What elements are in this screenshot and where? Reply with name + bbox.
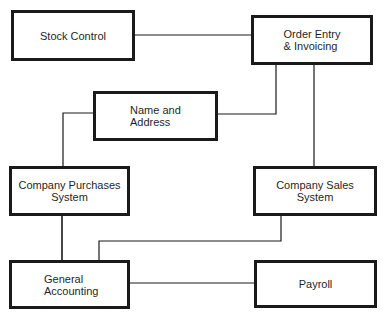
node-company-sales-system: Company Sales System bbox=[253, 166, 377, 216]
node-label: Payroll bbox=[299, 278, 333, 290]
node-company-purchases-system: Company Purchases System bbox=[9, 166, 130, 216]
node-label: Stock Control bbox=[40, 30, 106, 42]
node-label: Name and Address bbox=[130, 104, 181, 128]
node-label: General Accounting bbox=[44, 273, 98, 297]
edge-sales-accounting bbox=[99, 216, 281, 260]
edge-order-name bbox=[218, 64, 276, 114]
node-label: Company Purchases System bbox=[18, 179, 120, 203]
edge-name-purchases bbox=[63, 113, 93, 166]
node-payroll: Payroll bbox=[254, 260, 377, 308]
node-label: Order Entry & Invoicing bbox=[284, 28, 341, 52]
node-label: Company Sales System bbox=[276, 179, 354, 203]
node-name-and-address: Name and Address bbox=[93, 91, 218, 141]
node-general-accounting: General Accounting bbox=[9, 260, 130, 309]
node-order-entry-invoicing: Order Entry & Invoicing bbox=[251, 15, 373, 65]
node-stock-control: Stock Control bbox=[11, 10, 135, 61]
